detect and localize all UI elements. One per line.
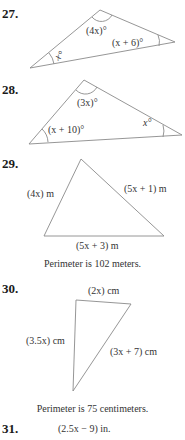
side-label-31-top: (2.5x − 9) in.: [58, 423, 111, 434]
angle-label-28-left: (x + 10)°: [48, 124, 84, 135]
problem-number-31: 31.: [2, 421, 18, 437]
figures-canvas: [0, 0, 185, 440]
triangle-29: [44, 159, 164, 236]
angle-arc-28-top: [76, 87, 97, 94]
triangle-27: [30, 10, 175, 68]
problem-number-30: 30.: [2, 281, 18, 297]
angle-arc-27-top: [92, 15, 112, 21]
perimeter-caption-30: Perimeter is 75 centimeters.: [0, 403, 185, 414]
side-label-29-right: (5x + 1) m: [124, 183, 167, 194]
side-label-30-top: (2x) cm: [88, 285, 119, 296]
angle-label-28-right: x°: [143, 117, 151, 128]
problem-number-28: 28.: [2, 82, 18, 98]
angle-label-28-top: (3x)°: [77, 97, 98, 108]
angle-arc-28-right: [163, 125, 164, 137]
problem-number-27: 27.: [2, 6, 18, 22]
angle-arc-27-right: [158, 35, 159, 46]
angle-label-27-top: (4x)°: [86, 25, 107, 36]
side-label-30-right: (3x + 7) cm: [110, 346, 157, 357]
side-label-29-bottom: (5x + 3) m: [76, 240, 119, 251]
side-label-29-left: (4x) m: [27, 188, 54, 199]
angle-label-27-right: (x + 6)°: [112, 37, 143, 48]
perimeter-caption-29: Perimeter is 102 meters.: [0, 258, 185, 269]
side-label-30-left: (3.5x) cm: [26, 335, 65, 346]
problem-number-29: 29.: [2, 156, 18, 172]
